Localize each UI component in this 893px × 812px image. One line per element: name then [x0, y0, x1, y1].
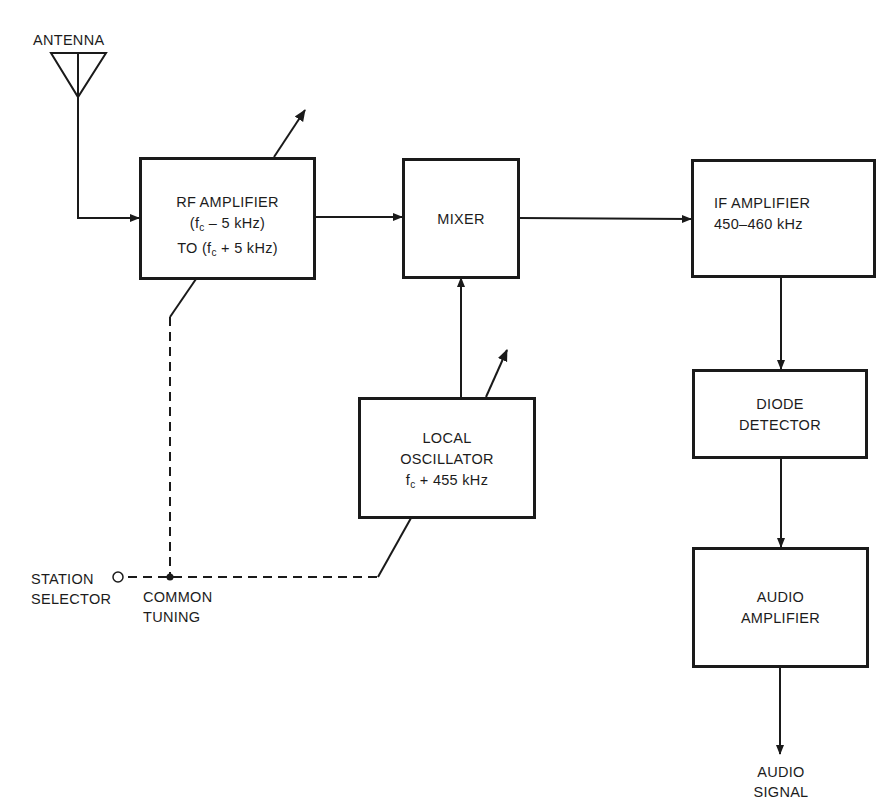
local-oscillator-title-1: LOCAL: [361, 428, 533, 449]
if-amplifier-block: IF AMPLIFIER 450–460 kHz: [691, 159, 876, 278]
common-tuning-label: COMMON TUNING: [143, 587, 212, 627]
lo-tuning-arrow: [486, 350, 507, 397]
mixer-block: MIXER: [402, 158, 520, 279]
diode-detector-title-1: DIODE: [695, 394, 865, 415]
rf-amplifier-block: RF AMPLIFIER (fc – 5 kHz) TO (fc + 5 kHz…: [139, 157, 316, 280]
audio-amplifier-title-1: AUDIO: [695, 587, 866, 608]
station-selector-terminal: [113, 572, 123, 582]
rf-tuning-arrow: [274, 110, 305, 157]
mixer-to-if-line: [519, 218, 691, 219]
if-amplifier-title: IF AMPLIFIER: [714, 193, 873, 214]
station-selector-label: STATION SELECTOR: [31, 569, 111, 609]
diode-detector-title-2: DETECTOR: [695, 415, 865, 436]
audio-amplifier-title-2: AMPLIFIER: [695, 608, 866, 629]
mixer-title: MIXER: [405, 209, 517, 230]
antenna-label: ANTENNA: [33, 31, 104, 49]
common-tuning-junction: [167, 574, 174, 581]
diode-detector-block: DIODE DETECTOR: [692, 369, 868, 459]
local-oscillator-freq: fc + 455 kHz: [361, 470, 533, 495]
rf-amplifier-range-low: (fc – 5 kHz): [142, 213, 313, 238]
rf-amplifier-title: RF AMPLIFIER: [142, 192, 313, 213]
rf-amplifier-range-high: TO (fc + 5 kHz): [142, 238, 313, 263]
if-amplifier-range: 450–460 kHz: [714, 214, 873, 235]
local-oscillator-block: LOCAL OSCILLATOR fc + 455 kHz: [358, 397, 536, 519]
local-oscillator-title-2: OSCILLATOR: [361, 449, 533, 470]
audio-signal-label: AUDIO SIGNAL: [745, 762, 817, 802]
antenna-to-rf-line: [78, 97, 139, 218]
audio-amplifier-block: AUDIO AMPLIFIER: [692, 547, 869, 668]
antenna-icon: [51, 53, 106, 97]
